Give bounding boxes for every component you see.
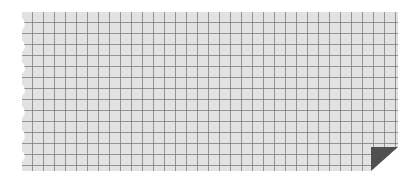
- folded-corner: [371, 147, 398, 171]
- graph-paper-sheet: [22, 12, 398, 171]
